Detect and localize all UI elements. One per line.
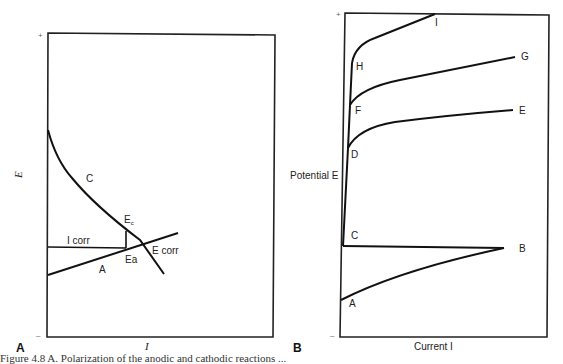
- point-c-label: C: [351, 230, 358, 241]
- label-i-corr: I corr: [67, 235, 90, 246]
- figure-caption: Figure 4.8 A. Polarization of the anodic…: [0, 352, 563, 364]
- panel-a-y-axis-label: E: [12, 171, 24, 179]
- curve-d-e: [348, 110, 513, 148]
- panel-b-plus-marker: +: [336, 10, 341, 19]
- point-e-label: E: [519, 105, 526, 116]
- curve-a-b: [341, 248, 504, 300]
- label-ec: Ec: [124, 214, 134, 226]
- curve-f-g: [350, 57, 515, 105]
- point-g-label: G: [521, 51, 529, 62]
- label-e-corr: E corr: [152, 245, 179, 256]
- panel-a-plus-marker: +: [38, 31, 43, 40]
- panel-a-frame: [47, 33, 275, 337]
- panel-a-x-axis-label: I: [144, 340, 150, 352]
- panel-a-minus-marker: –: [36, 331, 41, 340]
- i-corr-line: [48, 247, 126, 248]
- point-d-label: D: [351, 149, 358, 160]
- point-b-label: B: [519, 243, 526, 254]
- panel-b-minus-marker: –: [330, 331, 335, 340]
- curve-h-i: [352, 14, 435, 63]
- panel-b: + – Potential E Current I B A B C D E F …: [290, 10, 549, 355]
- point-i-label: I: [435, 17, 438, 28]
- curve-b-c: [343, 246, 504, 248]
- panel-b-y-axis-label: Potential E: [290, 170, 339, 181]
- label-a: A: [99, 264, 106, 275]
- label-c: C: [86, 173, 93, 184]
- panel-b-x-axis-label: Current I: [414, 341, 453, 352]
- panel-b-frame: [340, 13, 549, 337]
- point-h-label: H: [356, 61, 363, 72]
- point-a-label: A: [349, 298, 356, 309]
- label-ea: Ea: [125, 254, 138, 265]
- point-f-label: F: [355, 105, 361, 116]
- panel-a: + – E I A C Ec I corr E corr Ea A: [12, 31, 275, 355]
- cathodic-curve: [48, 130, 164, 274]
